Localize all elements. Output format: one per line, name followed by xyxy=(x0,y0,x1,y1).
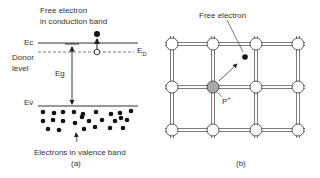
ionized-donor-hole xyxy=(94,49,100,55)
caption-b: (b) xyxy=(236,159,246,168)
atom xyxy=(166,124,178,136)
atom xyxy=(166,38,178,50)
atom xyxy=(250,81,262,93)
ed-label: ED xyxy=(137,46,147,57)
donor-atom xyxy=(207,81,219,93)
valence-label: Electrons in valence band xyxy=(34,148,126,157)
atom xyxy=(166,81,178,93)
free-electron-pointer xyxy=(227,20,243,52)
free-electron-label-b: Free electron xyxy=(199,11,246,20)
valence-pointer-arrow xyxy=(76,133,77,142)
free-electron-dot-b xyxy=(242,54,248,60)
free-electron-label-line2: in conduction band xyxy=(40,17,107,26)
atom xyxy=(292,124,304,136)
lattice-atoms xyxy=(166,38,304,136)
caption-a: (a) xyxy=(71,159,81,168)
atom xyxy=(292,38,304,50)
valence-electrons xyxy=(41,109,134,133)
atom xyxy=(250,124,262,136)
lattice-bonds xyxy=(165,36,305,138)
ev-label: Ev xyxy=(24,98,33,107)
atom xyxy=(250,38,262,50)
semiconductor-diagram: Free electron in conduction band Ec ED D… xyxy=(0,0,320,178)
ec-label: Ec xyxy=(24,38,33,47)
electron-release-arrow xyxy=(219,64,237,81)
free-electron-label-line1: Free electron xyxy=(40,6,87,15)
free-electron-dot xyxy=(94,31,100,37)
donor-label-line1: Donor xyxy=(12,53,34,62)
p-plus-label: P+ xyxy=(222,95,231,106)
atom xyxy=(292,81,304,93)
crystal-lattice-diagram: Free electron xyxy=(165,11,305,168)
energy-band-diagram: Free electron in conduction band Ec ED D… xyxy=(12,6,147,168)
atom xyxy=(207,38,219,50)
eg-label: Eg xyxy=(55,69,65,78)
donor-label-line2: level xyxy=(12,64,29,73)
atom xyxy=(207,124,219,136)
